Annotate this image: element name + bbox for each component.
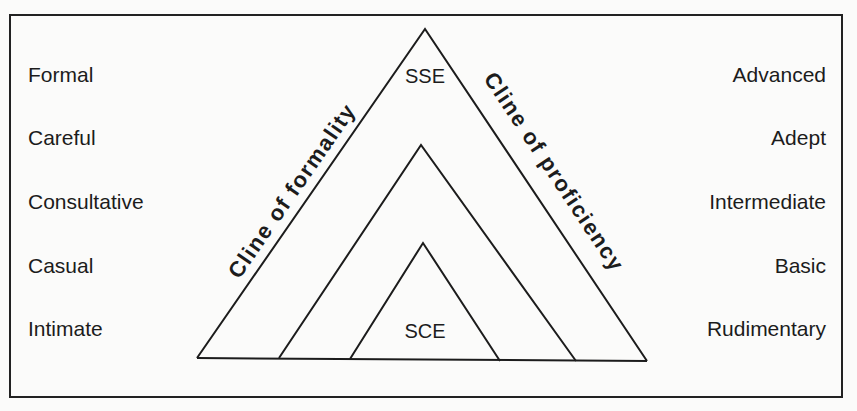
triangle-base-line [197, 358, 647, 361]
inner-label-sce: SCE [404, 320, 445, 342]
triangle-diagram: SSE SCE Cline of formality Cline of prof… [0, 0, 857, 411]
apex-label-sse: SSE [405, 65, 445, 87]
inner-triangle [350, 243, 500, 361]
cline-of-proficiency-label: Cline of proficiency [479, 67, 630, 276]
cline-of-formality-label: Cline of formality [223, 99, 361, 283]
